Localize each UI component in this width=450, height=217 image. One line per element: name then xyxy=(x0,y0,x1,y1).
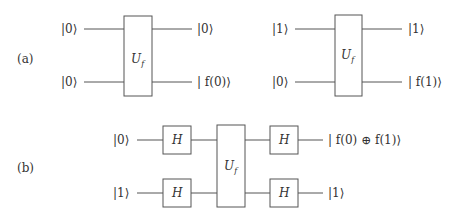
circuit-b-output-bottom: |1⟩ xyxy=(328,186,344,200)
part-a-label: (a) xyxy=(17,52,34,66)
hadamard-gate-label: H xyxy=(278,133,290,147)
circuit-a2-output-bottom: | f(1)⟩ xyxy=(408,75,442,89)
circuit-a2-output-top: |1⟩ xyxy=(408,22,424,36)
hadamard-gate-label: H xyxy=(171,133,183,147)
circuit-a1-input-bottom: |0⟩ xyxy=(61,75,77,89)
circuit-b: |0⟩ |1⟩ H H Uf H H | f(0) ⊕ f(1)⟩ |1⟩ xyxy=(113,125,401,207)
circuit-a2-input-top: |1⟩ xyxy=(272,22,288,36)
circuit-b-output-top: | f(0) ⊕ f(1)⟩ xyxy=(328,133,401,147)
circuit-a1-input-top: |0⟩ xyxy=(61,22,77,36)
circuit-b-input-top: |0⟩ xyxy=(113,133,129,147)
circuit-a1-output-top: |0⟩ xyxy=(197,22,213,36)
circuit-a2-input-bottom: |0⟩ xyxy=(272,75,288,89)
circuit-a1-output-bottom: | f(0)⟩ xyxy=(197,75,231,89)
hadamard-gate-label: H xyxy=(278,186,290,200)
circuit-a2: |1⟩ |0⟩ Uf |1⟩ | f(1)⟩ xyxy=(272,15,442,96)
part-b-label: (b) xyxy=(17,161,34,175)
circuit-a1: |0⟩ |0⟩ Uf |0⟩ | f(0)⟩ xyxy=(61,16,231,96)
circuit-b-input-bottom: |1⟩ xyxy=(113,186,129,200)
hadamard-gate-label: H xyxy=(171,186,183,200)
quantum-circuit-figure: (a) |0⟩ |0⟩ Uf |0⟩ | f(0)⟩ |1⟩ |0⟩ Uf |1… xyxy=(0,0,450,217)
